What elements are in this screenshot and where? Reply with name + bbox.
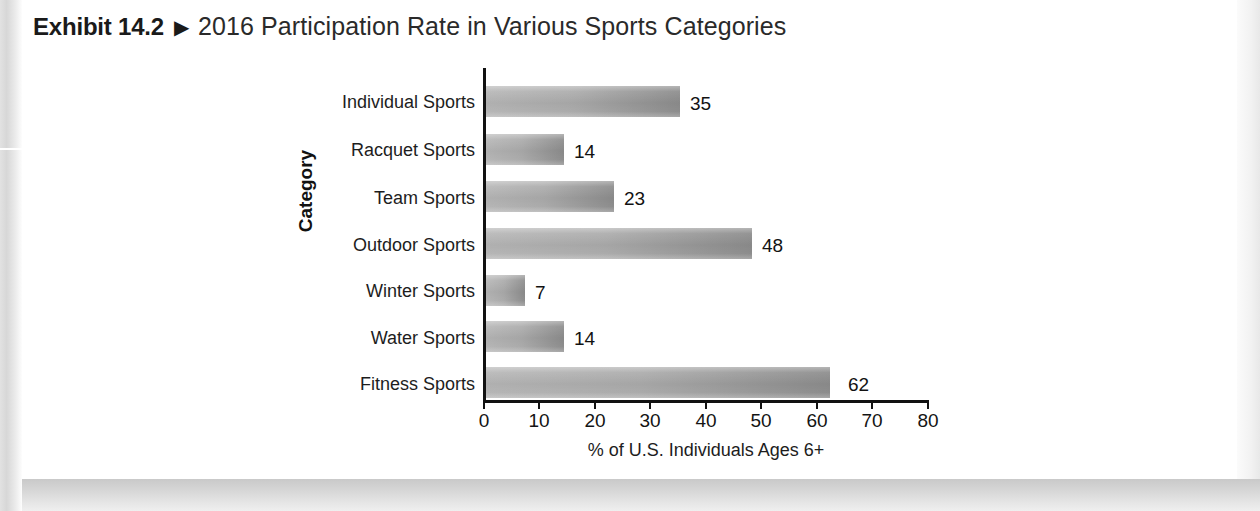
bar-value-label: 48 (762, 235, 783, 257)
bar-racquet-sports (486, 134, 564, 165)
x-axis-tick-label: 40 (686, 410, 726, 432)
x-axis-tick-label: 70 (852, 410, 892, 432)
category-label: Outdoor Sports (225, 235, 475, 256)
x-axis-tick (594, 400, 596, 409)
x-axis-tick (871, 400, 873, 409)
bar-value-label: 23 (624, 188, 645, 210)
x-axis-tick (483, 400, 485, 409)
x-axis-tick-label: 20 (575, 410, 615, 432)
exhibit-screenshot: Exhibit 14.2 ▶ 2016 Participation Rate i… (0, 0, 1260, 511)
x-axis-tick (649, 400, 651, 409)
page-bottom-shadow (22, 479, 1260, 511)
x-axis-tick-label: 50 (741, 410, 781, 432)
bar-outdoor-sports (486, 228, 752, 259)
x-axis-tick-label: 80 (908, 410, 948, 432)
category-label: Water Sports (225, 328, 475, 349)
bar-team-sports (486, 181, 614, 212)
bar-value-label: 7 (535, 282, 546, 304)
category-label: Winter Sports (225, 281, 475, 302)
x-axis-tick (760, 400, 762, 409)
bar-value-label: 35 (690, 93, 711, 115)
category-label: Individual Sports (225, 92, 475, 113)
x-axis-tick-label: 0 (464, 410, 504, 432)
bar-winter-sports (486, 275, 525, 306)
bar-fitness-sports (486, 367, 830, 398)
x-axis-tick (927, 400, 929, 409)
x-axis-tick (705, 400, 707, 409)
bar-chart: Category Individual Sports Racquet Sport… (0, 0, 1260, 479)
category-label: Fitness Sports (225, 374, 475, 395)
x-axis-tick (816, 400, 818, 409)
x-axis-tick-label: 60 (797, 410, 837, 432)
bar-value-label: 14 (574, 328, 595, 350)
category-label: Team Sports (225, 188, 475, 209)
category-labels: Individual Sports Racquet Sports Team Sp… (225, 0, 475, 334)
bar-water-sports (486, 321, 564, 352)
bar-value-label: 14 (574, 141, 595, 163)
x-axis-tick-label: 30 (630, 410, 670, 432)
bar-value-label: 62 (848, 374, 869, 396)
category-label: Racquet Sports (225, 140, 475, 161)
bar-individual-sports (486, 86, 680, 117)
x-axis-tick-label: 10 (519, 410, 559, 432)
x-axis-title: % of U.S. Individuals Ages 6+ (483, 440, 929, 461)
x-axis-tick (538, 400, 540, 409)
